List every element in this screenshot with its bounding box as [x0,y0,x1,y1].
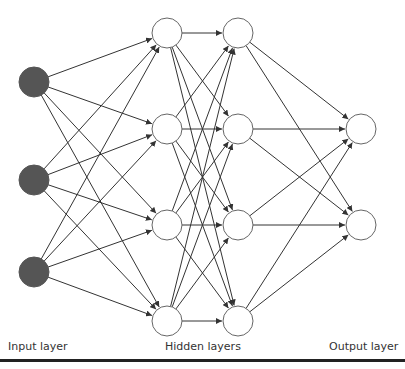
connection-arrow [48,185,152,220]
hidden1-neuron [152,114,182,144]
neural-network-diagram [0,0,405,369]
connection-arrow [250,235,349,312]
bottom-rule [0,359,405,362]
connection-arrow [48,135,152,175]
output-neuron [346,210,376,240]
connection-arrow [44,191,156,309]
connection-arrow [48,87,152,124]
hidden1-neuron [152,18,182,48]
output-neuron [346,114,376,144]
hidden2-neuron [223,306,253,336]
output-layer-label: Output layer [329,340,398,353]
input-neuron [19,257,49,287]
hidden-layers-label: Hidden layers [165,340,241,353]
hidden2-neuron [223,210,253,240]
connection-arrow [44,141,156,261]
hidden2-neuron [223,114,253,144]
input-neuron [19,165,49,195]
connections [41,33,352,321]
connection-arrow [44,45,156,169]
connection-arrow [250,42,349,119]
connection-arrow [48,39,152,77]
connection-arrow [48,230,152,267]
neurons [19,18,376,336]
hidden2-neuron [223,18,253,48]
hidden1-neuron [152,210,182,240]
connection-arrow [48,277,152,315]
input-layer-label: Input layer [8,340,68,353]
hidden1-neuron [152,306,182,336]
input-neuron [19,67,49,97]
